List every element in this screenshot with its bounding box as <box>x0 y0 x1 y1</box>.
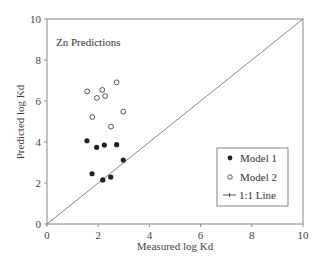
data-point <box>114 142 119 147</box>
model-1-marker-icon <box>228 156 233 161</box>
y-tick-label: 8 <box>36 54 42 66</box>
data-point <box>85 89 90 94</box>
x-tick-label: 0 <box>44 229 50 241</box>
data-point <box>121 109 126 114</box>
data-point <box>121 157 126 162</box>
y-axis: 0246810 <box>30 13 47 230</box>
data-point <box>84 138 89 143</box>
data-point <box>95 96 100 101</box>
legend: Model 1 Model 2 1:1 Line <box>217 148 288 206</box>
data-point <box>100 177 105 182</box>
data-point <box>89 171 94 176</box>
data-point <box>114 80 119 85</box>
x-tick-label: 8 <box>249 229 255 241</box>
data-point <box>108 174 113 179</box>
data-point <box>109 124 114 129</box>
y-tick-label: 0 <box>36 218 42 230</box>
x-tick-label: 10 <box>298 229 310 241</box>
legend-label-1to1-line: 1:1 Line <box>239 189 276 201</box>
data-point <box>102 142 107 147</box>
x-tick-label: 2 <box>95 229 101 241</box>
chart-title: Zn Predictions <box>56 36 120 48</box>
data-point <box>100 88 105 93</box>
x-axis-title: Measured log Kd <box>137 240 214 252</box>
data-point <box>94 145 99 150</box>
data-points <box>84 80 126 183</box>
legend-label-model-2: Model 2 <box>240 171 277 183</box>
legend-label-model-1: Model 1 <box>240 152 277 164</box>
data-point <box>90 115 95 120</box>
scatter-chart: 0246810 0246810 Zn Predictions Measured … <box>0 0 322 265</box>
data-point <box>103 94 108 99</box>
y-tick-label: 4 <box>36 136 42 148</box>
y-tick-label: 2 <box>36 177 42 189</box>
model-2-marker-icon <box>228 175 232 179</box>
y-tick-label: 6 <box>36 95 42 107</box>
x-axis: 0246810 <box>44 224 309 241</box>
y-tick-label: 10 <box>30 13 42 25</box>
y-axis-title: Predicted log Kd <box>14 84 26 159</box>
